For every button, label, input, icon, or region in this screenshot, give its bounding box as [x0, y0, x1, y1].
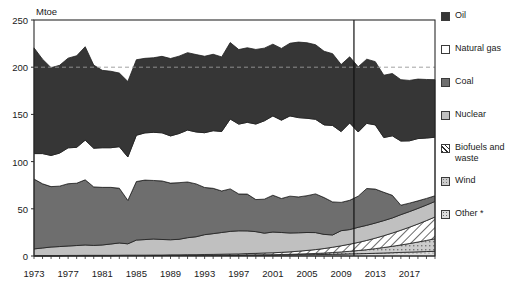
legend-label: Nuclear: [455, 109, 486, 120]
x-tick-label: 2005: [296, 268, 317, 279]
x-tick-label: 1977: [58, 268, 79, 279]
legend-item-nuclear[interactable]: Nuclear: [441, 109, 513, 142]
legend-label: Other *: [455, 208, 484, 219]
legend-label: Biofuels and waste: [455, 142, 505, 163]
y-tick-label: 200: [2, 62, 28, 73]
y-tick-label: 0: [2, 251, 28, 262]
x-tick-label: 1981: [92, 268, 113, 279]
legend-label: Oil: [455, 10, 466, 21]
x-tick-label: 2001: [262, 268, 283, 279]
legend-item-biofuels-and-waste[interactable]: Biofuels and waste: [441, 142, 513, 175]
x-tick-label: 2017: [399, 268, 420, 279]
y-tick-label: 100: [2, 156, 28, 167]
y-tick-label: 250: [2, 15, 28, 26]
legend-item-natural-gas[interactable]: Natural gas: [441, 43, 513, 76]
x-tick-label: 2013: [365, 268, 386, 279]
legend-label: Natural gas: [455, 43, 501, 54]
x-tick-label: 1997: [228, 268, 249, 279]
chart-plot-area: [0, 0, 513, 284]
x-tick-label: 1993: [194, 268, 215, 279]
y-tick-label: 150: [2, 109, 28, 120]
wind-swatch: [441, 177, 450, 186]
legend-item-coal[interactable]: Coal: [441, 76, 513, 109]
legend-item-other[interactable]: Other *: [441, 208, 513, 241]
y-tick-label: 50: [2, 203, 28, 214]
nuclear-swatch: [441, 111, 450, 120]
x-tick-label: 1985: [126, 268, 147, 279]
coal-swatch: [441, 78, 450, 87]
other-swatch: [441, 210, 450, 219]
x-tick-label: 1989: [160, 268, 181, 279]
stacked-area-chart: Mtoe 050100150200250 1973197719811985198…: [0, 0, 513, 284]
x-tick-label: 2009: [331, 268, 352, 279]
area-series-group: [34, 42, 435, 256]
legend-item-oil[interactable]: Oil: [441, 10, 513, 43]
natural-gas-swatch: [441, 45, 450, 54]
oil-swatch: [441, 12, 450, 21]
legend-label: Wind: [455, 175, 476, 186]
biofuels-swatch: [441, 144, 450, 153]
legend-item-wind[interactable]: Wind: [441, 175, 513, 208]
chart-legend: OilNatural gasCoalNuclearBiofuels and wa…: [441, 10, 513, 241]
legend-label: Coal: [455, 76, 474, 87]
x-tick-label: 1973: [23, 268, 44, 279]
